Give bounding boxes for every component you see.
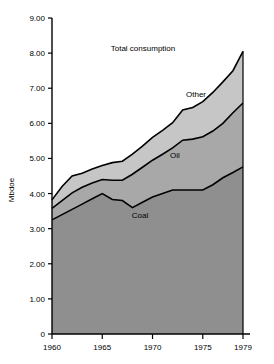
chart-canvas: 01.002.003.004.005.006.007.008.009.00 19…: [0, 0, 274, 364]
y-tick-label: 6.00: [29, 119, 45, 128]
y-tick-label: 4.00: [29, 190, 45, 199]
y-tick-label: 7.00: [29, 84, 45, 93]
series-label-oil: Oil: [170, 151, 180, 160]
y-tick-label: 0: [41, 330, 46, 339]
y-tick-label: 2.00: [29, 260, 45, 269]
series-label-other: Other: [186, 90, 206, 99]
series-label-coal: Coal: [132, 211, 149, 220]
y-tick-label: 1.00: [29, 295, 45, 304]
x-tick-label: 1960: [43, 343, 61, 352]
series-label-total-consumption: Total consumption: [111, 44, 175, 53]
x-axis-ticks: 19601965197019751979: [43, 334, 252, 352]
y-axis-title: Mbdoe: [7, 177, 16, 202]
y-tick-label: 5.00: [29, 154, 45, 163]
x-tick-label: 1970: [144, 343, 162, 352]
y-tick-label: 9.00: [29, 14, 45, 23]
y-axis-ticks: 01.002.003.004.005.006.007.008.009.00: [29, 14, 52, 339]
plot-areas: [52, 51, 243, 334]
x-tick-label: 1965: [93, 343, 111, 352]
x-tick-label: 1975: [194, 343, 212, 352]
energy-consumption-area-chart: 01.002.003.004.005.006.007.008.009.00 19…: [0, 0, 274, 364]
x-tick-label: 1979: [234, 343, 252, 352]
y-tick-label: 3.00: [29, 225, 45, 234]
y-tick-label: 8.00: [29, 49, 45, 58]
